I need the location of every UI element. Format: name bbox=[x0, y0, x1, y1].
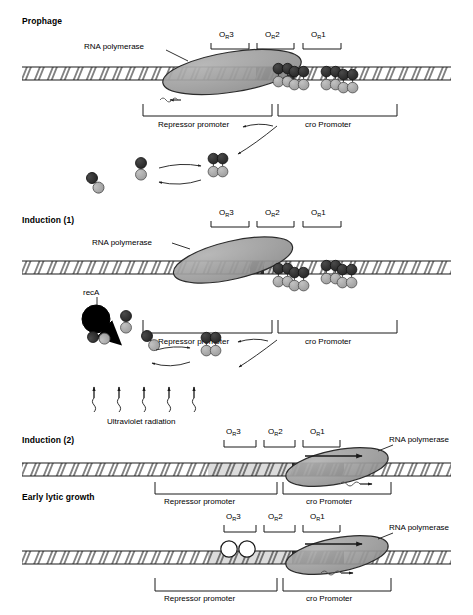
operator-label-or3: OR3 bbox=[211, 208, 249, 227]
operator-label-or3: OR3 bbox=[211, 30, 249, 49]
svg-text:OR2: OR2 bbox=[265, 30, 280, 40]
svg-text:OR2: OR2 bbox=[265, 208, 280, 218]
polymerase-leader-line bbox=[172, 243, 190, 249]
svg-text:OR1: OR1 bbox=[310, 427, 325, 437]
operator-label-or2: OR2 bbox=[257, 208, 294, 227]
promoter-label-repressor: Repressor promoter bbox=[164, 594, 235, 603]
svg-text:OR1: OR1 bbox=[311, 30, 326, 40]
svg-text:OR1: OR1 bbox=[310, 512, 325, 522]
transcript-arrow-rightward bbox=[340, 482, 372, 486]
polymerase-leader-line bbox=[378, 533, 393, 539]
panel-title: Prophage bbox=[22, 16, 62, 26]
polymerase-leader-line bbox=[378, 445, 393, 451]
promoter-label-cro: cro Promoter bbox=[305, 337, 352, 346]
transcript-arrow-leftward bbox=[160, 98, 181, 102]
bound-dimer bbox=[338, 69, 358, 93]
rna-polymerase bbox=[283, 528, 392, 581]
free-monomer bbox=[121, 311, 132, 334]
promoter-bracket-cro: cro Promoter bbox=[278, 104, 397, 129]
free-monomer bbox=[136, 158, 147, 181]
promoter-bracket-repressor: Repressor promoter bbox=[155, 482, 277, 506]
free-monomer bbox=[84, 170, 106, 195]
svg-text:OR3: OR3 bbox=[219, 30, 234, 40]
svg-text:OR3: OR3 bbox=[226, 512, 241, 522]
operator-label-or1: OR1 bbox=[303, 208, 341, 227]
empty-subunit bbox=[221, 541, 237, 557]
uv-label: Ultraviolet radiation bbox=[107, 417, 175, 426]
panel-early-lytic-growth: Early lytic growth OR3 OR2 OR1 bbox=[22, 492, 451, 603]
operator-label-or1: OR1 bbox=[303, 512, 340, 532]
promoter-bracket-repressor: Repressor promoter bbox=[143, 104, 272, 129]
promoter-bracket-cro: cro Promoter bbox=[283, 578, 391, 603]
svg-text:OR3: OR3 bbox=[219, 208, 234, 218]
panel-prophage: Prophage OR3 OR2 OR1 RNA polym bbox=[22, 16, 451, 195]
polymerase-leader-line bbox=[166, 50, 188, 61]
panel-title: Induction (2) bbox=[22, 435, 74, 445]
polymerase-label: RNA polymerase bbox=[389, 523, 450, 532]
operator-label-or2: OR2 bbox=[264, 512, 295, 532]
free-dimer bbox=[208, 153, 228, 177]
operator-label-or2: OR2 bbox=[264, 427, 295, 447]
operator-label-or1: OR1 bbox=[303, 30, 341, 49]
polymerase-label: RNA polymerase bbox=[389, 435, 450, 444]
operator-label-or3: OR3 bbox=[224, 427, 256, 447]
operator-label-or1: OR1 bbox=[303, 427, 340, 447]
promoter-bracket-cro: cro Promoter bbox=[278, 320, 397, 346]
dna-duplex bbox=[22, 463, 451, 476]
uv-rays bbox=[92, 387, 195, 412]
promoter-bracket-repressor: Repressor promoter bbox=[155, 578, 277, 603]
operator-label-or3: OR3 bbox=[224, 512, 256, 532]
rna-polymerase bbox=[283, 440, 392, 493]
svg-text:OR3: OR3 bbox=[226, 427, 241, 437]
promoter-label-cro: cro Promoter bbox=[306, 497, 353, 506]
operator-label-or2: OR2 bbox=[257, 30, 294, 49]
panel-title: Early lytic growth bbox=[22, 492, 95, 502]
panel-title: Induction (1) bbox=[22, 215, 74, 225]
svg-text:OR2: OR2 bbox=[268, 427, 283, 437]
svg-text:OR2: OR2 bbox=[268, 512, 283, 522]
polymerase-label: RNA polymerase bbox=[92, 238, 153, 247]
promoter-label-cro: cro Promoter bbox=[306, 594, 353, 603]
figure-canvas: Prophage OR3 OR2 OR1 RNA polym bbox=[0, 0, 473, 615]
dimer-to-dna-arrow bbox=[238, 124, 277, 154]
promoter-label-repressor: Repressor promoter bbox=[158, 120, 229, 129]
polymerase-label: RNA polymerase bbox=[84, 42, 145, 51]
equilibrium-arrows bbox=[159, 164, 201, 184]
svg-text:OR1: OR1 bbox=[311, 208, 326, 218]
promoter-label-cro: cro Promoter bbox=[305, 120, 352, 129]
panel-induction-1: Induction (1) OR3 OR2 OR1 RNA polymera bbox=[22, 208, 451, 426]
empty-subunit bbox=[239, 541, 255, 557]
dimer-release-arrow bbox=[238, 339, 277, 367]
reca-label: recA bbox=[83, 288, 100, 297]
equilibrium-arrows bbox=[152, 347, 190, 366]
lambda-regulation-svg: Prophage OR3 OR2 OR1 RNA polym bbox=[0, 0, 473, 615]
promoter-label-repressor: Repressor promoter bbox=[164, 497, 235, 506]
